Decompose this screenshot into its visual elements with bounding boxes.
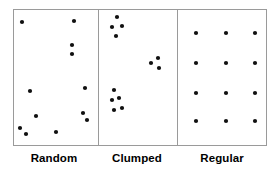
data-point bbox=[194, 119, 198, 123]
data-point bbox=[28, 89, 32, 93]
panel-label-random: Random bbox=[31, 152, 78, 164]
data-point bbox=[114, 34, 118, 38]
distribution-diagram: RandomClumpedRegular bbox=[0, 0, 277, 172]
data-point bbox=[112, 108, 116, 112]
data-point bbox=[253, 31, 257, 35]
data-point bbox=[110, 25, 114, 29]
data-point bbox=[70, 43, 74, 47]
data-point bbox=[253, 61, 257, 65]
data-point bbox=[224, 61, 228, 65]
data-point bbox=[253, 91, 257, 95]
data-point bbox=[157, 66, 161, 70]
data-point bbox=[70, 52, 74, 56]
data-point bbox=[120, 24, 124, 28]
data-point bbox=[194, 31, 198, 35]
data-point bbox=[18, 126, 22, 130]
data-point bbox=[72, 19, 76, 23]
data-point bbox=[115, 15, 119, 19]
data-point bbox=[224, 119, 228, 123]
data-point bbox=[117, 96, 121, 100]
data-point bbox=[194, 61, 198, 65]
distribution-pattern-figure: RandomClumpedRegular bbox=[0, 0, 277, 172]
data-point bbox=[156, 56, 160, 60]
data-point bbox=[20, 20, 24, 24]
data-point bbox=[110, 98, 114, 102]
data-point bbox=[224, 91, 228, 95]
panel-label-clumped: Clumped bbox=[112, 152, 162, 164]
data-point bbox=[112, 88, 116, 92]
diagram-frame bbox=[14, 10, 267, 146]
data-point bbox=[149, 61, 153, 65]
data-point bbox=[24, 132, 28, 136]
data-point bbox=[85, 118, 89, 122]
panel-label-regular: Regular bbox=[200, 152, 244, 164]
data-point bbox=[54, 130, 58, 134]
panel-labels: RandomClumpedRegular bbox=[31, 152, 244, 164]
data-point bbox=[194, 91, 198, 95]
data-point bbox=[120, 106, 124, 110]
data-point bbox=[224, 31, 228, 35]
data-point bbox=[81, 111, 85, 115]
data-point bbox=[83, 86, 87, 90]
data-point bbox=[34, 114, 38, 118]
data-point bbox=[253, 119, 257, 123]
